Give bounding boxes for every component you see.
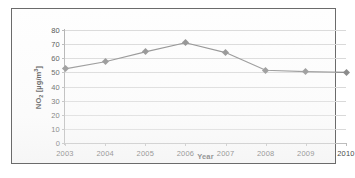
y-axis-tick-label: 30 xyxy=(51,96,60,105)
gridline xyxy=(65,143,346,144)
y-axis-tick-label: 70 xyxy=(51,40,60,49)
y-axis-tick-label: 10 xyxy=(51,124,60,133)
x-axis-tick-mark xyxy=(226,143,227,146)
y-axis-title-subscript: 2 xyxy=(38,94,44,97)
y-axis-title-superscript: 3 xyxy=(34,68,40,71)
plot-area: 01020304050607080 2003200420052006200720… xyxy=(65,30,346,143)
x-axis-tick-mark xyxy=(145,143,146,146)
y-axis-tick-label: 80 xyxy=(51,26,60,35)
x-axis-tick-mark xyxy=(105,143,106,146)
y-axis-tick-label: 50 xyxy=(51,68,60,77)
y-axis-title: NO2 [µg/m3] xyxy=(32,50,46,124)
x-axis-tick-mark xyxy=(266,143,267,146)
y-axis-title-text: NO2 [µg/m3] xyxy=(35,65,44,108)
y-axis-tick-label: 60 xyxy=(51,54,60,63)
y-axis-title-units-open: [µg/m xyxy=(35,71,44,94)
y-axis-tick-label: 20 xyxy=(51,110,60,119)
y-axis-title-base: NO xyxy=(35,97,44,108)
y-axis-tick-label: 40 xyxy=(51,82,60,91)
x-axis-title: Year xyxy=(65,152,346,161)
series-line xyxy=(65,30,346,143)
x-axis-tick-mark xyxy=(306,143,307,146)
x-axis-tick-mark xyxy=(346,143,347,146)
x-axis-tick-mark xyxy=(185,143,186,146)
chart-frame-border: NO2 [µg/m3] 01020304050607080 2003200420… xyxy=(11,8,336,164)
y-axis-tick-label: 0 xyxy=(56,139,60,148)
x-axis-tick-mark xyxy=(65,143,66,146)
